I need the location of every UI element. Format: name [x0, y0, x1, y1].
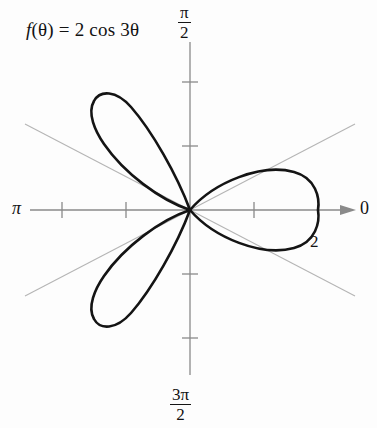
petal-240deg	[91, 210, 190, 327]
equation-caption: f(θ) = 2 cos 3θ	[26, 20, 139, 39]
fraction-denominator: 2	[170, 404, 191, 423]
fraction-pi-over-2: π 2	[178, 4, 191, 41]
axis-label-pi-over-2: π 2	[178, 4, 191, 41]
petal-120deg	[91, 93, 190, 210]
fraction-numerator: 3π	[170, 386, 191, 404]
fraction-3pi-over-2: 3π 2	[170, 386, 191, 423]
equation-argument: (θ)	[31, 19, 53, 40]
x-axis-arrowhead	[340, 205, 356, 215]
fraction-denominator: 2	[178, 22, 191, 41]
axis-label-3pi-over-2: 3π 2	[170, 386, 191, 423]
fraction-numerator: π	[178, 4, 191, 22]
polar-plot-canvas	[0, 0, 377, 428]
polar-rose-figure: f(θ) = 2 cos 3θ π 2 3π 2 π 0 2	[0, 0, 377, 428]
radius-label-2: 2	[310, 233, 319, 250]
equation-right-side: 2 cos 3θ	[75, 19, 140, 40]
axis-label-pi: π	[12, 199, 21, 217]
axis-label-zero: 0	[360, 199, 369, 217]
equation-equals: =	[54, 19, 75, 40]
